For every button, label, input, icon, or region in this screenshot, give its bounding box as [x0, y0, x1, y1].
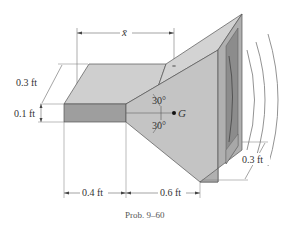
prism-length-arrow-left [64, 192, 69, 195]
xbar-label: x̄ [121, 26, 127, 38]
xbar-arrow-left [77, 32, 82, 35]
centroid-label: G [178, 107, 186, 119]
horn-length-arrow-left [126, 192, 131, 195]
upper-angle-label: 30° [152, 95, 166, 106]
lower-angle-label: 30° [152, 120, 166, 131]
prism-height-arrow-top [40, 104, 43, 108]
sound-wave-1 [247, 50, 255, 150]
sound-wave-3 [268, 34, 278, 166]
prism-height-arrow-bottom [40, 118, 43, 122]
sound-wave-2 [256, 42, 265, 158]
horn-length-arrow-right [195, 192, 200, 195]
prism-depth-label: 0.3 ft [16, 77, 37, 88]
prism-height-label: 0.1 ft [14, 108, 35, 119]
prism-front-face [64, 104, 126, 122]
xbar-guide-marker [172, 65, 176, 67]
mouth-depth-label: 0.3 ft [242, 154, 263, 165]
prism-depth-dim-line [42, 65, 62, 103]
horn-diagram: x̄ 0.3 ft 0.1 ft 0.4 ft 0.6 ft 0.3 ft 30… [0, 0, 300, 230]
figure-caption: Prob. 9–60 [125, 210, 165, 220]
prism-length-label: 0.4 ft [82, 187, 103, 198]
centroid-point [172, 111, 176, 115]
horn-length-label: 0.6 ft [160, 187, 181, 198]
xbar-arrow-right [169, 32, 174, 35]
prism-length-arrow-right [121, 192, 126, 195]
